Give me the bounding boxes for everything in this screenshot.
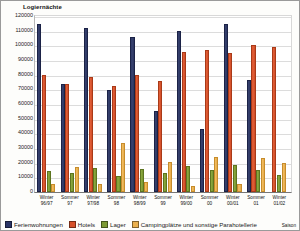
legend-swatch-icon — [5, 221, 12, 228]
y-tick-label: 100000 — [2, 43, 33, 48]
bar-1 — [65, 84, 69, 192]
y-tick-label: 20000 — [2, 160, 33, 165]
bar-2 — [140, 169, 144, 192]
bar-group — [268, 16, 291, 192]
legend-item[interactable]: Campingplätze und sonstige Parahotelleri… — [132, 221, 257, 228]
bar-0 — [154, 111, 158, 192]
bar-2 — [233, 165, 237, 192]
bar-0 — [200, 129, 204, 192]
bar-3 — [98, 184, 102, 192]
y-tick-label: 80000 — [2, 72, 33, 77]
x-tick-line: Winter — [226, 195, 240, 200]
legend-swatch-icon — [69, 221, 76, 228]
bar-group — [58, 16, 81, 192]
bar-0 — [107, 90, 111, 192]
y-tick-label: 120000 — [2, 13, 33, 18]
bar-2 — [163, 173, 167, 192]
bar-2 — [70, 173, 74, 192]
bar-1 — [42, 75, 46, 192]
bar-group — [221, 16, 244, 192]
bar-1 — [228, 53, 232, 192]
bar-group — [35, 16, 58, 192]
bar-group — [244, 16, 267, 192]
bar-1 — [205, 50, 209, 192]
bar-group — [198, 16, 221, 192]
y-axis: 1200001100001000009000080000700006000050… — [1, 15, 33, 193]
y-tick-label: 0 — [2, 189, 33, 194]
bar-0 — [37, 24, 41, 192]
y-tick-label: 110000 — [2, 28, 33, 33]
bar-2 — [47, 171, 51, 192]
bar-1 — [135, 75, 139, 192]
y-tick-label: 70000 — [2, 87, 33, 92]
bar-0 — [130, 37, 134, 192]
bar-0 — [61, 84, 65, 192]
legend-swatch-icon — [132, 221, 139, 228]
bar-2 — [277, 175, 281, 192]
bar-group — [105, 16, 128, 192]
legend-item[interactable]: Ferienwohnungen — [5, 221, 63, 228]
legend-label: Hotels — [78, 221, 95, 228]
bar-0 — [84, 28, 88, 192]
bar-1 — [272, 47, 276, 192]
x-tick-line: Winter — [133, 195, 147, 200]
bar-0 — [224, 24, 228, 192]
chart-legend: FerienwohnungenHotelsLagerCampingplätze … — [5, 221, 257, 228]
bar-group — [151, 16, 174, 192]
bar-3 — [168, 162, 172, 193]
bar-1 — [89, 77, 93, 192]
x-tick-line: Winter — [273, 195, 287, 200]
y-tick-label: 30000 — [2, 145, 33, 150]
bar-2 — [256, 170, 260, 192]
bar-2 — [93, 168, 97, 192]
bar-3 — [261, 158, 265, 192]
legend-label: Campingplätze und sonstige Parahotelleri… — [141, 221, 257, 228]
bar-3 — [191, 186, 195, 192]
legend-swatch-icon — [101, 221, 108, 228]
y-tick-label: 60000 — [2, 101, 33, 106]
bar-0 — [177, 31, 181, 192]
bar-group — [82, 16, 105, 192]
legend-label: Lager — [110, 221, 126, 228]
bar-1 — [182, 52, 186, 192]
bar-1 — [251, 45, 255, 192]
x-axis: Winter96/97Sommer97Winter97/98Sommer98Wi… — [35, 195, 291, 213]
y-tick-label: 90000 — [2, 57, 33, 62]
bar-3 — [237, 184, 241, 192]
chart-figure: Logiernächte 120000110000100000900008000… — [0, 0, 300, 231]
bar-2 — [210, 170, 214, 192]
x-tick-label: Winter01/02 — [263, 195, 296, 206]
x-tick-line: Winter — [86, 195, 100, 200]
legend-label: Ferienwohnungen — [14, 221, 63, 228]
y-tick-label: 50000 — [2, 116, 33, 121]
bar-2 — [186, 166, 190, 192]
legend-item[interactable]: Lager — [101, 221, 126, 228]
x-tick-line: Winter — [179, 195, 193, 200]
bar-3 — [75, 167, 79, 192]
bar-group — [128, 16, 151, 192]
bar-3 — [51, 184, 55, 192]
y-tick-label: 40000 — [2, 131, 33, 136]
bar-group — [175, 16, 198, 192]
bar-3 — [144, 182, 148, 192]
legend-item[interactable]: Hotels — [69, 221, 95, 228]
bar-0 — [247, 80, 251, 192]
x-tick-line: Winter — [40, 195, 54, 200]
y-tick-label: 10000 — [2, 175, 33, 180]
bar-3 — [214, 157, 218, 192]
bar-series-container — [35, 16, 291, 192]
bar-1 — [158, 81, 162, 192]
bar-1 — [112, 86, 116, 192]
x-axis-title: Saison — [282, 223, 296, 228]
bar-2 — [116, 176, 120, 192]
bar-3 — [121, 143, 125, 192]
bar-3 — [282, 163, 286, 192]
y-axis-title: Logiernächte — [23, 4, 62, 10]
x-tick-line: 01/02 — [263, 201, 296, 207]
